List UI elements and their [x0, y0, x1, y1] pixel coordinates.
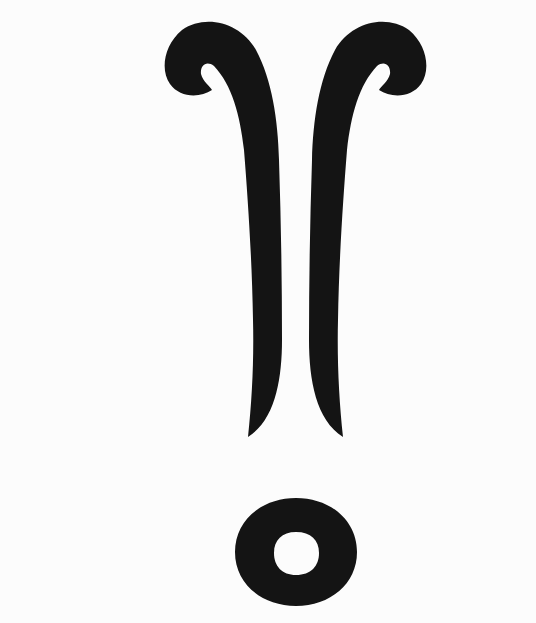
right-scroll-stem	[309, 22, 426, 437]
ring	[235, 498, 357, 606]
ornamental-glyph	[0, 0, 536, 623]
glyph-canvas	[0, 0, 536, 623]
left-scroll-stem	[165, 22, 282, 437]
